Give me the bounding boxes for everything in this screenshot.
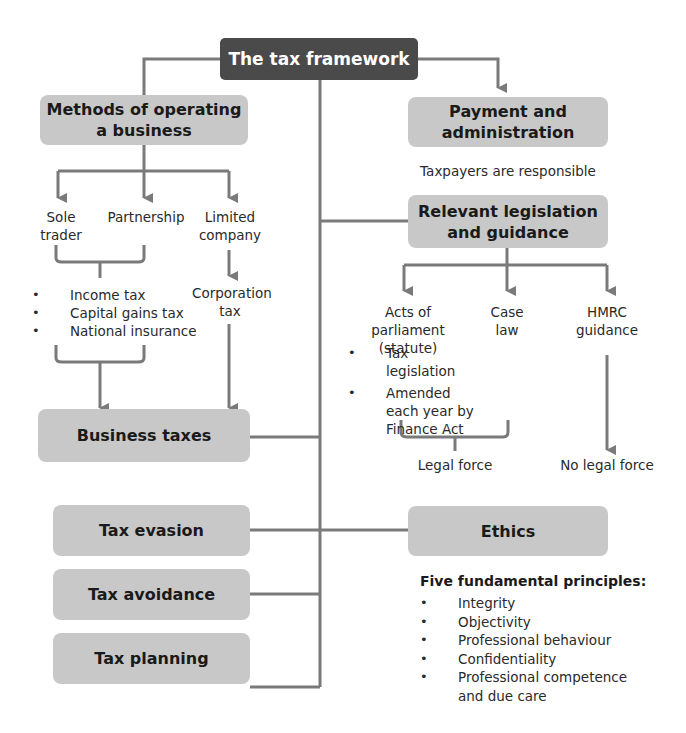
node-tax-planning: Tax planning bbox=[53, 633, 250, 684]
ethics-principles-list: Integrity Objectivity Professional behav… bbox=[418, 594, 638, 705]
label-case-law: Case law bbox=[487, 303, 527, 339]
node-label: Business taxes bbox=[77, 425, 212, 446]
label-no-legal-force: No legal force bbox=[552, 456, 662, 474]
tax-item: Capital gains tax bbox=[30, 304, 210, 322]
principle-item: Objectivity bbox=[418, 613, 638, 632]
label-corporation-tax: Corporation tax bbox=[192, 284, 268, 320]
node-ethics: Ethics bbox=[408, 506, 608, 556]
label-partnership: Partnership bbox=[106, 208, 186, 226]
node-label: Relevant legislation and guidance bbox=[408, 201, 608, 243]
node-label: Tax planning bbox=[94, 648, 208, 669]
acts-point: Tax legislation bbox=[346, 344, 476, 380]
label-sole-trader: Sole trader bbox=[38, 208, 84, 244]
label-hmrc-guidance: HMRC guidance bbox=[572, 303, 642, 339]
tax-item: National insurance bbox=[30, 322, 210, 340]
node-label: Methods of operating a business bbox=[40, 99, 248, 141]
node-payment-administration: Payment and administration bbox=[408, 97, 608, 147]
node-business-taxes: Business taxes bbox=[38, 409, 250, 462]
label-legal-force: Legal force bbox=[405, 456, 505, 474]
node-label: Ethics bbox=[481, 521, 535, 542]
principle-item: Professional competence and due care bbox=[418, 668, 638, 705]
title-node: The tax framework bbox=[220, 38, 418, 80]
tax-framework-diagram: The tax framework Methods of operating a… bbox=[0, 0, 686, 733]
node-label: Tax evasion bbox=[99, 520, 204, 541]
node-label: Payment and administration bbox=[408, 101, 608, 143]
label-limited-company: Limited company bbox=[196, 208, 264, 244]
unincorporated-taxes-list: Income tax Capital gains tax National in… bbox=[30, 286, 210, 340]
acts-points-list: Tax legislation Amended each year by Fin… bbox=[346, 344, 476, 442]
node-tax-avoidance: Tax avoidance bbox=[53, 569, 250, 620]
acts-point: Amended each year by Finance Act bbox=[346, 384, 476, 438]
principle-item: Professional behaviour bbox=[418, 631, 638, 650]
node-tax-evasion: Tax evasion bbox=[53, 505, 250, 556]
payment-note: Taxpayers are responsible bbox=[398, 162, 618, 180]
principle-item: Confidentiality bbox=[418, 650, 638, 669]
tax-item: Income tax bbox=[30, 286, 210, 304]
ethics-heading: Five fundamental principles: bbox=[420, 573, 646, 589]
node-methods-of-operating: Methods of operating a business bbox=[40, 95, 248, 145]
node-label: Tax avoidance bbox=[88, 584, 215, 605]
title-text: The tax framework bbox=[228, 49, 409, 70]
node-relevant-legislation: Relevant legislation and guidance bbox=[408, 195, 608, 248]
principle-item: Integrity bbox=[418, 594, 638, 613]
